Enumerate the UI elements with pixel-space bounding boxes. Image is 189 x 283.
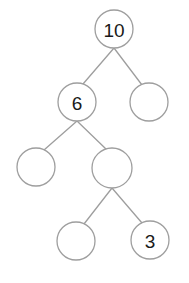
- edges-group: [44, 48, 142, 224]
- tree-node-empty[interactable]: [92, 148, 132, 188]
- node-circle[interactable]: [17, 148, 55, 186]
- node-label: 6: [72, 93, 83, 114]
- tree-edge: [77, 121, 106, 149]
- tree-edge: [114, 48, 142, 85]
- node-circle[interactable]: [57, 222, 95, 260]
- tree-node-filled[interactable]: 10: [95, 10, 133, 48]
- tree-node-filled[interactable]: 3: [131, 221, 169, 259]
- tree-node-empty[interactable]: [57, 222, 95, 260]
- tree-node-empty[interactable]: [130, 83, 168, 121]
- tree-edge: [83, 48, 114, 84]
- node-label: 10: [103, 20, 124, 41]
- node-circle[interactable]: [130, 83, 168, 121]
- node-circle[interactable]: [92, 148, 132, 188]
- tree-edge: [112, 188, 142, 223]
- number-bond-diagram: 1063: [0, 0, 189, 283]
- tree-edge: [44, 121, 77, 150]
- tree-edge: [84, 188, 112, 224]
- node-label: 3: [145, 231, 156, 252]
- tree-node-empty[interactable]: [17, 148, 55, 186]
- nodes-group: 1063: [17, 10, 169, 260]
- tree-canvas: 1063: [0, 0, 189, 283]
- tree-node-filled[interactable]: 6: [58, 83, 96, 121]
